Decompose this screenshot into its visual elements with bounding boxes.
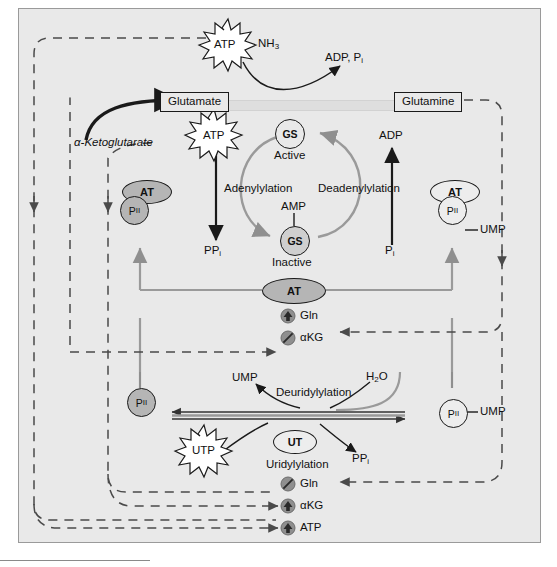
label-ppi-lower: PPi (352, 453, 369, 466)
label-amp: AMP (281, 201, 306, 213)
pii-left-upper-text: P (129, 205, 136, 217)
regulator-lower-akg-label: αKG (300, 500, 323, 512)
label-atp-left-burst: ATP (203, 130, 225, 142)
node-ut[interactable]: UT (273, 430, 317, 454)
dashed-outer-bottom-to-atp (34, 504, 262, 528)
dashed-second-bottom-to-akg (108, 474, 262, 506)
up-arrow-circle-icon-gln-upper (281, 309, 295, 323)
label-ump-mid: UMP (232, 372, 258, 384)
label-gs-inactive-state: Inactive (272, 257, 312, 269)
arrow-atp-to-adp-pi (243, 62, 340, 90)
footer-rule (0, 560, 150, 561)
regulator-upper-akg-label: αKG (300, 332, 323, 344)
regulator-lower-atp-label: ATP (300, 522, 322, 534)
label-adenylylation: Adenylylation (224, 183, 292, 195)
node-pii-right-lower[interactable]: PII (439, 399, 468, 428)
regulator-lower-gln-label: Gln (300, 478, 318, 490)
label-nh3: NH3 (258, 38, 279, 51)
label-ump-right-upper: UMP (480, 224, 506, 236)
label-utp-burst: UTP (192, 445, 215, 457)
label-alpha-ketoglutarate: α-Ketoglutarate (74, 137, 153, 149)
node-at-center[interactable]: AT (262, 278, 326, 304)
label-deuridylylation: Deuridylylation (276, 387, 351, 399)
label-adp-right: ADP (379, 130, 403, 142)
pii-left-lower-text: P (136, 397, 143, 409)
dashed-right-upper (340, 100, 502, 332)
label-ump-right-lower: UMP (480, 406, 506, 418)
pii-right-lower-text: P (448, 408, 455, 420)
label-ppi-upper: PPi (204, 245, 221, 258)
node-pii-left-upper[interactable]: PII (120, 196, 149, 225)
label-pi-right: Pi (385, 245, 394, 258)
slash-circle-icon-gln-lower (281, 477, 295, 491)
up-arrow-circle-icon-atp-lower (281, 521, 295, 535)
node-pii-left-lower[interactable]: PII (127, 388, 156, 417)
node-gs-inactive[interactable]: GS (280, 226, 310, 256)
label-gs-active-state: Active (274, 150, 305, 162)
label-adp-pi-top: ADP, Pi (325, 52, 363, 65)
label-water: H2O (366, 371, 388, 384)
pii-right-upper-text: P (447, 205, 454, 217)
arrow-out-ppi (320, 424, 356, 452)
box-glutamate[interactable]: Glutamate (160, 92, 229, 112)
node-pii-right-upper[interactable]: PII (438, 196, 467, 225)
slash-circle-icon-akg-upper (281, 331, 295, 345)
arrow-in-utp (222, 423, 268, 452)
label-deadenylylation: Deadenylylation (318, 183, 400, 195)
label-uridylylation: Uridylylation (266, 459, 329, 471)
node-gs-active[interactable]: GS (275, 119, 305, 149)
diagram-canvas: ATP NH3 ADP, Pi Glutamate Glutamine α-Ke… (0, 0, 557, 567)
label-atp-top-burst: ATP (214, 39, 236, 51)
up-arrow-circle-icon-akg-lower (281, 499, 295, 513)
regulator-upper-gln-label: Gln (300, 310, 318, 322)
box-glutamine[interactable]: Glutamine (394, 92, 462, 112)
